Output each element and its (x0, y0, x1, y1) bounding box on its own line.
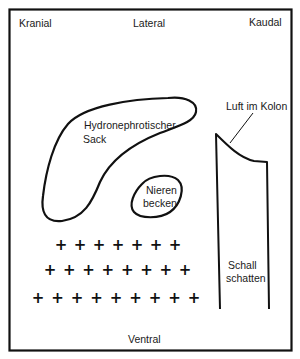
plus-marker: + (44, 261, 57, 279)
label-pelvis-line1: Nieren (146, 184, 177, 196)
plus-marker: + (188, 289, 201, 307)
plus-marker: + (131, 236, 144, 254)
plus-marker: + (121, 261, 134, 279)
diagram-canvas: Kranial Lateral Kaudal Ventral Hydroneph… (0, 0, 300, 359)
plus-marker: + (90, 289, 103, 307)
plus-marker: + (71, 289, 84, 307)
plus-marker: + (150, 236, 163, 254)
plus-marker: + (168, 289, 181, 307)
plus-marker: + (55, 236, 68, 254)
label-sack-line2: Sack (83, 133, 107, 145)
plus-marker: + (82, 261, 95, 279)
plus-marker: + (169, 236, 182, 254)
label-shadow-line2: schatten (226, 272, 266, 284)
label-pelvis-line2: becken (143, 197, 177, 209)
gas-markers: ++++++++++++++++++++++++ (32, 236, 201, 307)
plus-marker: + (93, 236, 106, 254)
plus-marker: + (129, 289, 142, 307)
plus-marker: + (179, 261, 192, 279)
plus-marker: + (51, 289, 64, 307)
plus-marker: + (140, 261, 153, 279)
plus-marker: + (74, 236, 87, 254)
plus-marker: + (110, 289, 123, 307)
label-lateral: Lateral (133, 17, 165, 29)
label-kaudal: Kaudal (249, 16, 282, 28)
label-ventral: Ventral (128, 333, 161, 345)
plus-marker: + (149, 289, 162, 307)
plus-marker: + (160, 261, 173, 279)
label-colon-air: Luft im Kolon (226, 100, 287, 112)
label-kranial: Kranial (19, 17, 52, 29)
plus-marker: + (32, 289, 45, 307)
label-shadow-line1: Schall (228, 259, 257, 271)
label-sack-line1: Hydronephrotischer (84, 119, 176, 131)
plus-marker: + (63, 261, 76, 279)
plus-marker: + (112, 236, 125, 254)
colon-air-leader-line (230, 113, 253, 143)
plus-marker: + (102, 261, 115, 279)
